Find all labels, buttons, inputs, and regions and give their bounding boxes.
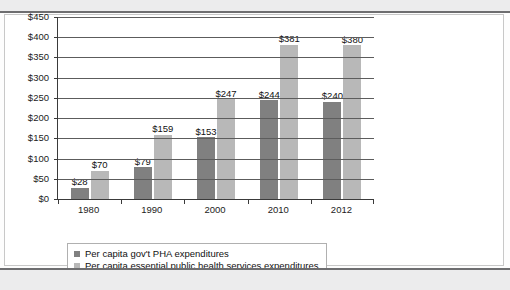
gridline (58, 78, 374, 79)
bar-value-label: $247 (215, 89, 236, 99)
bar-value-label: $240 (322, 91, 343, 101)
y-tick-label: $450 (28, 12, 49, 22)
bar-pair: $244$381 (257, 17, 301, 199)
y-axis-tick-labels: $0$50$100$150$200$250$300$350$400$450 (5, 17, 53, 199)
x-tick-mark (373, 199, 374, 204)
bar-2010-series2[interactable]: $381 (280, 45, 298, 199)
gridline (58, 159, 374, 160)
gridline (58, 179, 374, 180)
legend-swatch-icon (74, 251, 80, 257)
bar-group-2000: $153$247 (184, 17, 247, 199)
y-tick-mark (54, 199, 58, 200)
page-rule-top (0, 11, 510, 13)
gridline (58, 98, 374, 99)
y-tick-mark (54, 118, 58, 119)
bar-group-2012: $240$380 (311, 17, 374, 199)
chart-grid: $28$70$79$159$153$247$244$381$240$380 (57, 17, 374, 200)
x-tick-label-2000: 2000 (183, 205, 246, 215)
bar-pair: $240$380 (320, 17, 364, 199)
bar-pair: $153$247 (194, 17, 238, 199)
legend-item-series1[interactable]: Per capita gov't PHA expenditures (74, 248, 318, 260)
bar-value-label: $70 (92, 160, 108, 170)
y-tick-mark (54, 78, 58, 79)
gridline (58, 138, 374, 139)
plot-area: $0$50$100$150$200$250$300$350$400$450 $2… (5, 17, 385, 225)
bar-value-label: $153 (195, 127, 216, 137)
x-tick-mark (121, 199, 122, 204)
x-tick-mark (248, 199, 249, 204)
y-tick-label: $250 (28, 93, 49, 103)
y-tick-mark (54, 179, 58, 180)
y-tick-mark (54, 159, 58, 160)
y-tick-label: $200 (28, 113, 49, 123)
y-tick-mark (54, 37, 58, 38)
x-tick-label-2012: 2012 (310, 205, 373, 215)
bar-2000-series1[interactable]: $153 (197, 137, 215, 199)
y-tick-label: $100 (28, 154, 49, 164)
x-tick-mark (184, 199, 185, 204)
bar-2012-series1[interactable]: $240 (323, 102, 341, 199)
x-tick-mark (58, 199, 59, 204)
page-top-margin (0, 0, 510, 11)
bar-value-label: $381 (279, 34, 300, 44)
bar-pair: $28$70 (68, 17, 112, 199)
y-tick-label: $400 (28, 32, 49, 42)
gridline (58, 57, 374, 58)
x-tick-label-1990: 1990 (120, 205, 183, 215)
y-tick-mark (54, 57, 58, 58)
y-tick-label: $0 (38, 194, 49, 204)
bar-pair: $79$159 (131, 17, 175, 199)
gridline (58, 37, 374, 38)
bar-group-1980: $28$70 (58, 17, 121, 199)
bar-1990-series1[interactable]: $79 (134, 167, 152, 199)
gridline (58, 118, 374, 119)
x-tick-label-1980: 1980 (57, 205, 120, 215)
y-tick-label: $350 (28, 53, 49, 63)
y-tick-label: $50 (33, 174, 49, 184)
bar-2010-series1[interactable]: $244 (260, 100, 278, 199)
page-bottom-margin (0, 270, 510, 290)
chart-figure: $0$50$100$150$200$250$300$350$400$450 $2… (4, 14, 504, 266)
bar-1990-series2[interactable]: $159 (154, 135, 172, 199)
y-tick-label: $300 (28, 73, 49, 83)
legend-label: Per capita gov't PHA expenditures (85, 248, 229, 260)
bar-2012-series2[interactable]: $380 (343, 45, 361, 199)
gridline (58, 17, 374, 18)
bar-group-1990: $79$159 (121, 17, 184, 199)
x-axis-tick-labels: 19801990200020102012 (57, 205, 373, 215)
x-tick-label-2010: 2010 (247, 205, 310, 215)
bar-group-2010: $244$381 (248, 17, 311, 199)
y-tick-mark (54, 17, 58, 18)
x-tick-mark (311, 199, 312, 204)
bar-groups: $28$70$79$159$153$247$244$381$240$380 (58, 17, 374, 199)
y-tick-mark (54, 98, 58, 99)
bar-1980-series2[interactable]: $70 (91, 171, 109, 199)
bar-1980-series1[interactable]: $28 (71, 188, 89, 199)
y-tick-label: $150 (28, 134, 49, 144)
bar-value-label: $159 (152, 124, 173, 134)
bar-2000-series2[interactable]: $247 (217, 99, 235, 199)
y-tick-mark (54, 138, 58, 139)
